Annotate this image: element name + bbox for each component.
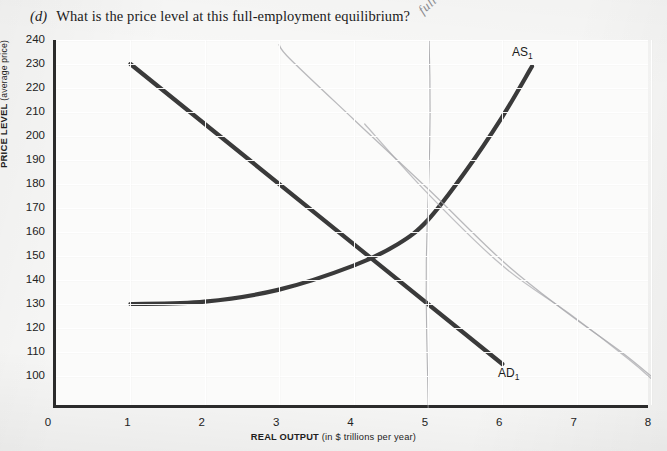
plot-area (53, 40, 648, 408)
curve-label-as-sub: 1 (528, 51, 533, 61)
x-tick-4: 4 (336, 416, 366, 428)
question-prompt: (d)What is the price level at this full-… (30, 8, 590, 25)
curve-label-ad: AD1 (498, 366, 519, 382)
y-tick-230: 230 (5, 57, 45, 69)
curve-AS1 (130, 66, 532, 304)
x-tick-8: 8 (633, 416, 663, 428)
y-tick-150: 150 (5, 249, 45, 261)
x-tick-6: 6 (484, 416, 514, 428)
curve-label-as: AS1 (512, 45, 533, 61)
gridline-vertical (651, 40, 652, 405)
y-tick-100: 100 (5, 369, 45, 381)
curve-label-ad-sub: 1 (515, 372, 520, 382)
y-tick-120: 120 (5, 321, 45, 333)
curve-AD3-pencil (365, 124, 651, 378)
x-tick-1: 1 (112, 416, 142, 428)
y-tick-130: 130 (5, 297, 45, 309)
y-tick-170: 170 (5, 201, 45, 213)
curve-AD2-pencil (279, 45, 651, 376)
x-axis-title-sub: (in $ trillions per year) (322, 432, 416, 442)
y-tick-190: 190 (5, 153, 45, 165)
plot-canvas (56, 40, 651, 408)
curve-full-employment-line (426, 40, 430, 408)
worksheet-page: (d)What is the price level at this full-… (0, 0, 667, 451)
x-axis-title-main: REAL OUTPUT (251, 432, 319, 442)
y-tick-220: 220 (5, 81, 45, 93)
curve-label-as-text: AS (512, 45, 528, 59)
x-tick-0: 0 (33, 416, 63, 428)
x-tick-7: 7 (559, 416, 589, 428)
y-tick-200: 200 (5, 129, 45, 141)
x-tick-5: 5 (410, 416, 440, 428)
y-tick-160: 160 (5, 225, 45, 237)
x-tick-2: 2 (187, 416, 217, 428)
y-tick-240: 240 (5, 33, 45, 45)
curve-label-ad-text: AD (498, 366, 515, 380)
question-label: (d) (30, 8, 47, 24)
question-text: What is the price level at this full-emp… (56, 8, 410, 24)
x-axis-title: REAL OUTPUT (in $ trillions per year) (0, 432, 667, 442)
y-tick-110: 110 (5, 345, 45, 357)
y-tick-140: 140 (5, 273, 45, 285)
x-tick-3: 3 (261, 416, 291, 428)
y-tick-180: 180 (5, 177, 45, 189)
curve-AD1 (130, 64, 502, 364)
y-tick-210: 210 (5, 105, 45, 117)
